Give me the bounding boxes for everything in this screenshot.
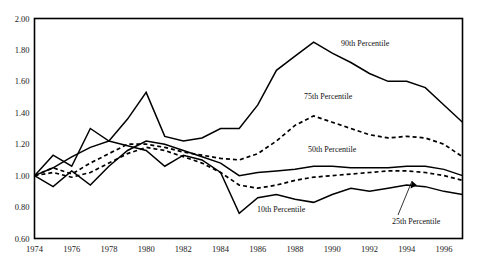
series-line-90th-percentile — [35, 42, 463, 176]
x-axis-tick-label: 1974 — [26, 244, 44, 254]
series-line-50th-percentile — [35, 141, 463, 187]
x-axis-tick-labels: 1974197619781980198219841986198819901992… — [26, 244, 452, 254]
y-axis-tick-labels: 2.001.801.601.401.201.000.800.60 — [15, 14, 30, 244]
x-axis-tick-label: 1982 — [175, 244, 192, 254]
series-label-25th-percentile: 25th Percentile — [392, 217, 441, 226]
x-axis-tick-label: 1996 — [435, 244, 452, 254]
x-axis-tick-label: 1986 — [249, 244, 266, 254]
x-axis-tick-label: 1980 — [138, 244, 155, 254]
data-series-group — [35, 42, 463, 213]
x-axis-tick-label: 1988 — [287, 244, 304, 254]
percentile-line-chart: 2.001.801.601.401.201.000.800.60 1974197… — [0, 0, 478, 265]
series-label-50th-percentile: 50th Percentile — [308, 145, 357, 154]
x-axis-tick-label: 1976 — [63, 244, 80, 254]
series-label-10th-percentile: 10th Percentile — [257, 205, 306, 214]
y-axis-tick-label: 1.60 — [15, 76, 30, 86]
y-axis-tick-label: 1.00 — [15, 171, 30, 181]
y-axis-tick-label: 2.00 — [15, 14, 30, 24]
y-axis-tick-label: 1.80 — [15, 45, 30, 55]
series-annotations: 90th Percentile75th Percentile50th Perce… — [257, 39, 441, 226]
series-label-90th-percentile: 90th Percentile — [341, 39, 390, 48]
y-axis-tick-label: 1.20 — [15, 139, 30, 149]
x-axis-tick-label: 1994 — [398, 244, 416, 254]
series-label-75th-percentile: 75th Percentile — [304, 92, 353, 101]
series-line-25th-percentile — [35, 147, 463, 188]
x-axis-tick-label: 1978 — [100, 244, 117, 254]
x-axis-tick-label: 1990 — [324, 244, 341, 254]
chart-canvas: 2.001.801.601.401.201.000.800.60 1974197… — [0, 0, 478, 265]
y-axis-tick-label: 0.80 — [15, 202, 30, 212]
x-axis-tick-label: 1984 — [212, 244, 230, 254]
y-axis-tick-label: 0.60 — [15, 234, 30, 244]
x-axis-tick-label: 1992 — [361, 244, 378, 254]
y-axis-tick-label: 1.40 — [15, 108, 30, 118]
